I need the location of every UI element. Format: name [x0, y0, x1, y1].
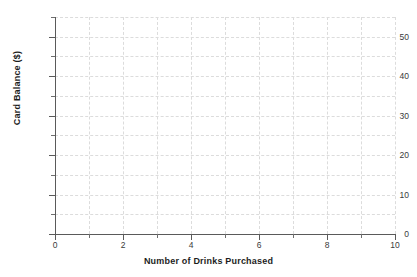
gridline-horizontal — [55, 56, 395, 57]
y-axis-minor-tick — [51, 17, 55, 18]
gridline-vertical — [327, 17, 328, 234]
gridline-vertical — [259, 17, 260, 234]
y-axis-tick — [49, 76, 55, 77]
y-axis-minor-tick — [51, 96, 55, 97]
gridline-vertical — [157, 17, 158, 234]
y-axis-tick-label: 50 — [371, 32, 417, 41]
gridline-vertical — [191, 17, 192, 234]
y-axis-tick-label: 10 — [371, 190, 417, 199]
x-axis-minor-tick — [225, 234, 226, 238]
chart-figure: 010203040500246810 Card Balance ($) Numb… — [0, 0, 417, 277]
x-axis-tick-label: 8 — [312, 241, 342, 250]
y-axis-tick — [49, 37, 55, 38]
x-axis-tick-label: 4 — [176, 241, 206, 250]
x-axis-minor-tick — [89, 234, 90, 238]
y-axis-tick-label: 0 — [371, 230, 417, 239]
y-axis-minor-tick — [51, 214, 55, 215]
gridline-vertical — [123, 17, 124, 234]
y-axis-tick-label: 20 — [371, 151, 417, 160]
gridline-vertical — [293, 17, 294, 234]
y-axis-tick — [49, 195, 55, 196]
x-axis-tick-label: 2 — [108, 241, 138, 250]
y-axis-minor-tick — [51, 56, 55, 57]
y-axis-tick-label: 40 — [371, 72, 417, 81]
gridline-horizontal — [55, 96, 395, 97]
y-axis-tick-label: 30 — [371, 111, 417, 120]
y-axis-spine — [55, 17, 56, 235]
x-axis-title: Number of Drinks Purchased — [0, 256, 417, 266]
gridline-vertical — [89, 17, 90, 234]
y-axis-tick — [49, 116, 55, 117]
gridline-horizontal — [55, 135, 395, 136]
plot-area — [55, 17, 395, 234]
gridline-horizontal — [55, 214, 395, 215]
gridline-horizontal — [55, 76, 395, 77]
x-axis-minor-tick — [361, 234, 362, 238]
gridline-horizontal — [55, 195, 395, 196]
gridline-vertical — [395, 17, 396, 234]
x-axis-tick-label: 10 — [380, 241, 410, 250]
gridline-horizontal — [55, 116, 395, 117]
y-axis-minor-tick — [51, 135, 55, 136]
gridline-vertical — [361, 17, 362, 234]
x-axis-minor-tick — [157, 234, 158, 238]
gridline-horizontal — [55, 37, 395, 38]
x-axis-tick-label: 0 — [40, 241, 70, 250]
gridline-vertical — [225, 17, 226, 234]
x-axis-minor-tick — [293, 234, 294, 238]
gridline-horizontal — [55, 175, 395, 176]
y-axis-tick — [49, 155, 55, 156]
y-axis-minor-tick — [51, 175, 55, 176]
x-axis-tick-label: 6 — [244, 241, 274, 250]
gridline-horizontal — [55, 155, 395, 156]
y-axis-title: Card Balance ($) — [12, 8, 22, 168]
gridline-horizontal — [55, 17, 395, 18]
